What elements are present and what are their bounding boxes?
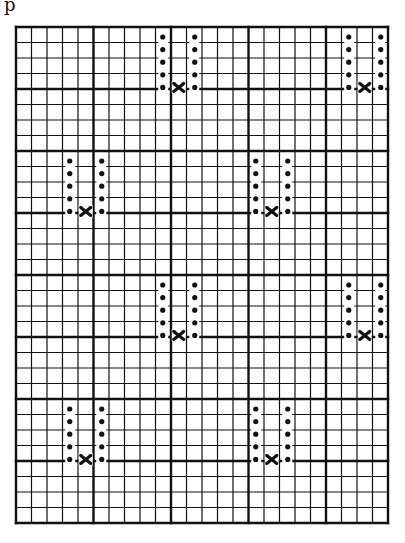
stitch-dot — [160, 308, 165, 313]
stitch-dot — [253, 209, 258, 214]
stitch-dot — [378, 295, 383, 300]
motif-1 — [158, 31, 199, 93]
stitch-dot — [192, 295, 197, 300]
stitch-dot — [285, 196, 290, 201]
stitch-dot — [67, 158, 72, 163]
stitch-dot — [160, 282, 165, 287]
stitch-dot — [99, 432, 104, 437]
stitch-dot — [160, 72, 165, 77]
stitch-dot — [378, 320, 383, 325]
stitch-dot — [253, 171, 258, 176]
stitch-dot — [67, 457, 72, 462]
stitch-dot — [378, 60, 383, 65]
stitch-dot — [67, 406, 72, 411]
stitch-dot — [378, 47, 383, 52]
stitch-dot — [378, 333, 383, 338]
stitch-dot — [192, 72, 197, 77]
cross-stitch-icon — [172, 81, 186, 93]
stitch-dot — [192, 320, 197, 325]
stitch-dot — [99, 171, 104, 176]
cross-stitch-icon — [172, 329, 186, 341]
stitch-dot — [192, 34, 197, 39]
cross-stitch-icon — [358, 329, 372, 341]
stitch-dot — [192, 282, 197, 287]
stitch-dot — [160, 320, 165, 325]
cross-stitch-icon — [358, 81, 372, 93]
stitch-dot — [99, 419, 104, 424]
stitch-dot — [160, 85, 165, 90]
stitch-dot — [99, 209, 104, 214]
motif-7 — [65, 403, 106, 465]
motif-8 — [251, 403, 292, 465]
stitch-dot — [99, 196, 104, 201]
stitch-dot — [67, 196, 72, 201]
stitch-dot — [285, 406, 290, 411]
stitch-dot — [378, 308, 383, 313]
cross-stitch-icon — [265, 453, 279, 465]
motif-6 — [344, 279, 385, 341]
stitch-dot — [285, 184, 290, 189]
stitch-dot — [346, 320, 351, 325]
stitch-dot — [253, 158, 258, 163]
stitch-dot — [346, 295, 351, 300]
stitch-dot — [346, 282, 351, 287]
stitch-dot — [99, 406, 104, 411]
stitch-dot — [192, 60, 197, 65]
motif-5 — [158, 279, 199, 341]
stitch-dot — [285, 419, 290, 424]
stitch-dot — [346, 34, 351, 39]
stitch-dot — [285, 457, 290, 462]
stitch-dot — [378, 282, 383, 287]
stitch-dot — [253, 184, 258, 189]
stitch-dot — [378, 34, 383, 39]
stitch-dot — [346, 47, 351, 52]
stitch-dot — [99, 444, 104, 449]
stitch-grid-diagram — [0, 0, 405, 543]
stitch-dot — [285, 432, 290, 437]
stitch-dot — [346, 72, 351, 77]
motifs — [65, 31, 385, 465]
stitch-dot — [346, 333, 351, 338]
stitch-dot — [253, 432, 258, 437]
stitch-dot — [160, 333, 165, 338]
stitch-dot — [285, 158, 290, 163]
cross-stitch-icon — [79, 453, 93, 465]
stitch-dot — [253, 406, 258, 411]
stitch-dot — [160, 34, 165, 39]
stitch-dot — [67, 432, 72, 437]
stitch-dot — [67, 171, 72, 176]
motif-2 — [344, 31, 385, 93]
stitch-dot — [253, 444, 258, 449]
stitch-dot — [346, 85, 351, 90]
stitch-dot — [99, 457, 104, 462]
stitch-dot — [378, 85, 383, 90]
stitch-dot — [67, 209, 72, 214]
stitch-dot — [378, 72, 383, 77]
stitch-dot — [160, 47, 165, 52]
stitch-dot — [285, 444, 290, 449]
stitch-dot — [253, 457, 258, 462]
stitch-dot — [160, 60, 165, 65]
stitch-dot — [253, 419, 258, 424]
stitch-dot — [67, 419, 72, 424]
stitch-dot — [67, 444, 72, 449]
stitch-dot — [346, 60, 351, 65]
stitch-dot — [192, 47, 197, 52]
stitch-dot — [253, 196, 258, 201]
stitch-dot — [285, 209, 290, 214]
stitch-dot — [192, 85, 197, 90]
stitch-dot — [346, 308, 351, 313]
stitch-dot — [160, 295, 165, 300]
cross-stitch-icon — [265, 205, 279, 217]
stitch-dot — [99, 184, 104, 189]
motif-3 — [65, 155, 106, 217]
motif-4 — [251, 155, 292, 217]
stitch-dot — [67, 184, 72, 189]
stitch-dot — [99, 158, 104, 163]
stitch-dot — [285, 171, 290, 176]
stitch-dot — [192, 333, 197, 338]
stitch-dot — [192, 308, 197, 313]
cross-stitch-icon — [79, 205, 93, 217]
